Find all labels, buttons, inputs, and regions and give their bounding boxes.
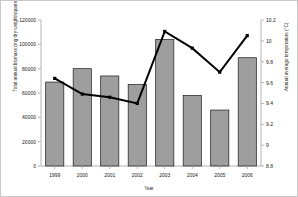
x-axis-tick-label: 2002 [132,172,143,178]
y-axis-left-tick-label: 120000 [0,17,36,23]
x-axis-title: Year [0,186,298,192]
y-axis-right-tick-label: 9.6 [266,80,273,86]
y-axis-right-tick-label: 10.2 [266,17,276,23]
y-axis-right-tick-label: 9.8 [266,59,273,65]
line-marker [136,102,139,105]
bar [101,76,119,166]
x-axis-tick-label: 2003 [159,172,170,178]
bar [128,84,146,166]
y-axis-left-title: Total annual biomass (mg dry weight/squa… [13,0,19,99]
x-axis-tick-label: 2005 [214,172,225,178]
line-marker [81,92,84,95]
y-axis-right-tick-label: 9.2 [266,121,273,127]
y-axis-left-tick-label: 40000 [0,114,36,120]
y-axis-right-tick-label: 10 [266,38,272,44]
x-axis-tick-label: 2001 [104,172,115,178]
x-axis-tick-label: 2006 [242,172,253,178]
y-axis-right-title: Annual average temperature (°C) [284,2,290,112]
y-axis-right-tick-label: 9.4 [266,100,273,106]
y-axis-left-tick-label: 0 [0,163,36,169]
line-marker [246,34,249,37]
bar [238,58,256,166]
line-marker [163,30,166,33]
chart-container: Total annual biomass (mg dry weight/squa… [0,0,298,197]
bar [156,39,174,166]
line-marker [218,71,221,74]
bar [73,69,91,166]
line-marker [191,47,194,50]
x-axis-tick-label: 2004 [187,172,198,178]
plot-area [0,0,298,197]
line-marker [53,77,56,80]
y-axis-right-tick-label: 9 [266,142,269,148]
y-axis-left-tick-label: 80000 [0,66,36,72]
y-axis-right-tick-label: 8.8 [266,163,273,169]
y-axis-left-tick-label: 20000 [0,139,36,145]
y-axis-left-tick-label: 60000 [0,90,36,96]
bar [211,110,229,166]
line-marker [108,96,111,99]
bar [183,95,201,166]
x-axis-tick-label: 2000 [77,172,88,178]
y-axis-left-tick-label: 100000 [0,41,36,47]
x-axis-tick-label: 1999 [49,172,60,178]
bar [46,82,64,166]
